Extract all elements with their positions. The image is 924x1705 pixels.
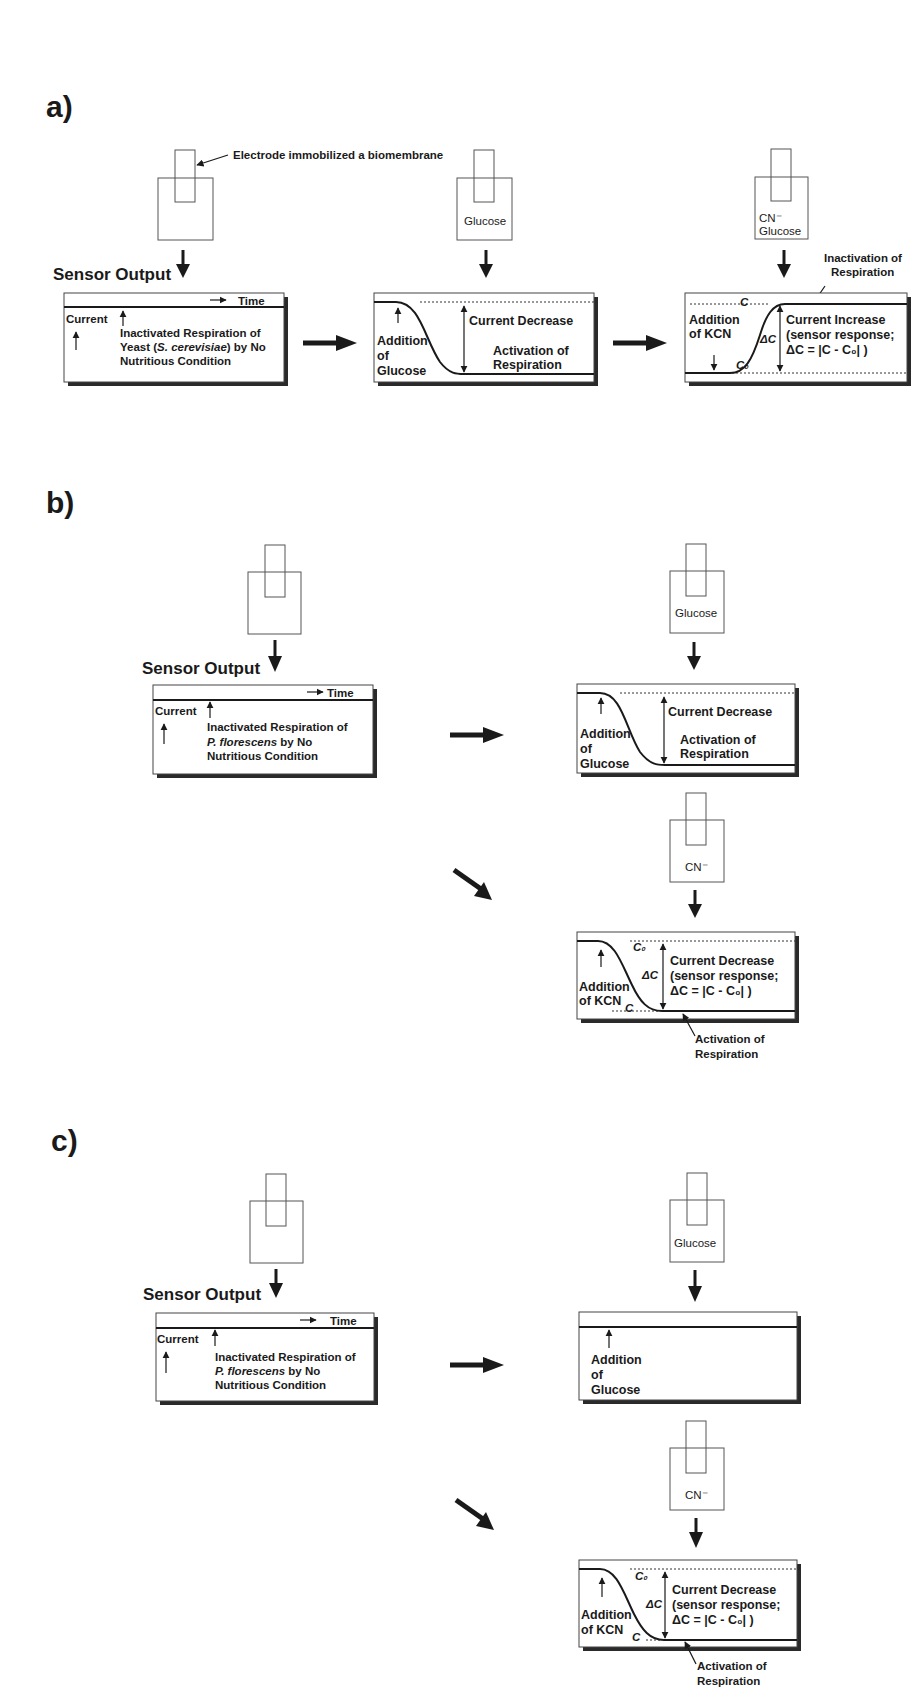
svg-text:Respiration: Respiration [695,1048,758,1060]
svg-text:ΔC = |C - C₀| ): ΔC = |C - C₀| ) [786,343,868,357]
electrode-vessel-icon [248,545,301,634]
svg-text:C₀: C₀ [635,1570,648,1582]
down-arrow-icon [176,250,190,278]
svg-text:C₀: C₀ [633,941,646,953]
svg-text:of KCN: of KCN [581,1623,623,1637]
svg-text:Current Decrease: Current Decrease [672,1583,776,1597]
svg-text:CN⁻: CN⁻ [685,1489,708,1501]
svg-text:Glucose: Glucose [591,1383,640,1397]
current-axis-label: Current [157,1333,199,1345]
svg-text:Addition: Addition [581,1608,632,1622]
svg-text:Current Decrease: Current Decrease [469,314,573,328]
svg-text:Current Decrease: Current Decrease [668,705,772,719]
graph-baseline: Time Current Inactivated Respiration of … [153,685,377,778]
svg-text:P. florescens by No: P. florescens by No [215,1365,320,1377]
svg-text:Addition: Addition [689,313,740,327]
right-arrow-icon [450,727,504,743]
electrode-callout: Electrode immobilized a biomembrane [233,149,443,161]
sensor-output-label: Sensor Output [53,265,171,284]
svg-text:Addition: Addition [579,980,630,994]
graph-kcn-decrease: Addition of KCN C₀ C ΔC Current Decrease… [579,1560,801,1651]
svg-text:Glucose: Glucose [674,1237,716,1249]
svg-text:Glucose: Glucose [759,225,801,237]
cyanide-vessel-icon: CN⁻ [670,793,724,882]
callout-arrow-icon [197,155,228,165]
graph-baseline: Time Current Inactivated Respiration of … [64,293,288,386]
glucose-vessel-icon: Glucose [670,544,724,633]
down-arrow-icon [689,1518,703,1548]
graph-glucose-no-response: Addition of Glucose [579,1312,801,1404]
diagonal-arrow-icon [456,1500,494,1530]
svg-text:(sensor response;: (sensor response; [786,328,894,342]
svg-text:Activation of: Activation of [493,344,570,358]
svg-text:Inactivation of: Inactivation of [824,252,902,264]
svg-text:of: of [580,742,593,756]
right-arrow-icon [303,335,357,351]
svg-text:Addition: Addition [580,727,631,741]
svg-text:Respiration: Respiration [493,358,562,372]
svg-text:P. florescens by No: P. florescens by No [207,736,312,748]
svg-text:ΔC = |C - C₀| ): ΔC = |C - C₀| ) [670,984,752,998]
panel-label-c: c) [51,1124,78,1157]
graph-glucose-response: Addition of Glucose Current Decrease Act… [577,684,799,777]
svg-text:C: C [625,1002,634,1014]
svg-text:Inactivated Respiration of: Inactivated Respiration of [215,1351,356,1363]
svg-text:(sensor response;: (sensor response; [672,1598,780,1612]
svg-text:Yeast (S. cerevisiae) by No: Yeast (S. cerevisiae) by No [120,341,266,353]
svg-text:Nutritious Condition: Nutritious Condition [120,355,231,367]
svg-text:ΔC: ΔC [641,969,659,981]
glucose-vessel-icon: Glucose [457,150,512,240]
electrode-vessel-icon [158,150,213,240]
svg-text:CN⁻: CN⁻ [685,861,708,873]
glucose-vessel-icon: Glucose [670,1173,724,1262]
current-axis-label: Current [66,313,108,325]
svg-text:Activation of: Activation of [695,1033,765,1045]
svg-text:Inactivated Respiration of: Inactivated Respiration of [207,721,348,733]
svg-text:of KCN: of KCN [689,327,731,341]
svg-text:C₀: C₀ [736,359,749,371]
svg-text:C: C [740,296,749,308]
down-arrow-icon [687,642,701,670]
sensor-output-label: Sensor Output [142,659,260,678]
svg-text:ΔC: ΔC [645,1598,663,1610]
figure-canvas: a) Electrode immobilized a biomembrane S… [0,0,924,1705]
panel-a: a) Electrode immobilized a biomembrane S… [46,90,911,386]
svg-text:Addition: Addition [377,334,428,348]
panel-b: b) Sensor Output Time Current Inactivate… [46,486,799,1060]
svg-text:C: C [632,1631,641,1643]
panel-label-b: b) [46,486,74,519]
cyanide-vessel-icon: CN⁻ [670,1421,724,1510]
svg-text:Current Decrease: Current Decrease [670,954,774,968]
svg-text:(sensor response;: (sensor response; [670,969,778,983]
graph-kcn-increase: Addition of KCN C C₀ ΔC Current Increase… [685,293,911,386]
down-arrow-icon [268,640,282,672]
down-arrow-icon [479,250,493,278]
svg-text:CN⁻: CN⁻ [759,212,782,224]
svg-text:ΔC: ΔC [759,333,777,345]
time-axis-label: Time [327,687,354,699]
svg-text:Glucose: Glucose [675,607,717,619]
sensor-output-label: Sensor Output [143,1285,261,1304]
svg-text:Current Increase: Current Increase [786,313,885,327]
svg-text:Glucose: Glucose [377,364,426,378]
graph-baseline: Time Current Inactivated Respiration of … [156,1313,378,1405]
down-arrow-icon [688,890,702,918]
electrode-vessel-icon [250,1174,303,1263]
down-arrow-icon [688,1270,702,1302]
svg-text:Nutritious Condition: Nutritious Condition [207,750,318,762]
svg-text:Glucose: Glucose [580,757,629,771]
panel-c: c) Sensor Output Time Current Inactivate… [51,1124,801,1687]
svg-text:Glucose: Glucose [464,215,506,227]
svg-text:Activation of: Activation of [680,733,757,747]
diagonal-arrow-icon [454,870,492,900]
svg-text:Respiration: Respiration [831,266,894,278]
svg-text:ΔC = |C - C₀| ): ΔC = |C - C₀| ) [672,1613,754,1627]
cyanide-glucose-vessel-icon: CN⁻ Glucose [755,149,808,239]
panel-label-a: a) [46,90,73,123]
svg-text:of: of [377,349,390,363]
right-arrow-icon [450,1357,504,1373]
current-axis-label: Current [155,705,197,717]
graph-kcn-decrease: Addition of KCN C₀ C ΔC Current Decrease… [577,932,799,1023]
svg-text:Addition: Addition [591,1353,642,1367]
right-arrow-icon [613,335,667,351]
